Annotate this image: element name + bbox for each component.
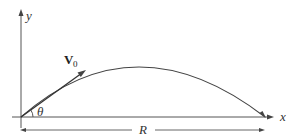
velocity-subscript: 0 (73, 59, 78, 69)
x-axis-label: x (279, 109, 286, 124)
y-axis-arrowhead-icon (19, 9, 24, 16)
x-axis: x (12, 109, 286, 124)
angle-arc (31, 110, 33, 117)
projectile-diagram: y x V 0 θ R (0, 0, 295, 140)
x-axis-arrowhead-icon (267, 115, 274, 120)
range-left-arrowhead-icon (20, 128, 26, 132)
velocity-vector-line (21, 73, 82, 117)
range-label: R (138, 122, 147, 137)
range-right-arrowhead-icon (259, 128, 265, 132)
y-axis-label: y (24, 8, 32, 23)
angle-label: θ (37, 104, 44, 119)
range-dimension: R (20, 122, 265, 137)
trajectory-curve (21, 67, 265, 117)
velocity-vector: V 0 (21, 52, 86, 117)
angle-marker: θ (31, 104, 44, 119)
